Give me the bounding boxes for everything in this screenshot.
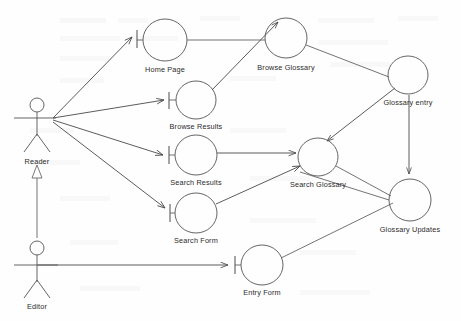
use-case-entry-form-label: Entry Form [243, 288, 281, 297]
use-case-home-page[interactable]: Home Page [143, 19, 187, 74]
use-case-browse-results-label: Browse Results [170, 122, 223, 131]
diagram-canvas: Reader Editor Home Page Browse Results S… [0, 0, 461, 321]
edge-reader-browse-results [53, 100, 164, 118]
edge-entry-form-glossary-updates [281, 203, 393, 258]
actor-leg-right [37, 280, 50, 298]
use-case-ellipse [176, 81, 216, 119]
use-case-search-form[interactable]: Search Form [174, 193, 218, 245]
edge-reader-search-results [53, 120, 163, 155]
uml-use-case-diagram: Reader Editor Home Page Browse Results S… [0, 0, 461, 321]
use-case-ellipse [241, 245, 283, 285]
use-case-glossary-entry-label: Glossary entry [383, 98, 432, 107]
actor-head-icon [30, 98, 44, 112]
edge-browse-glossary-glossary-entry [306, 45, 389, 77]
use-case-ellipse [298, 138, 338, 176]
actor-leg-left [24, 134, 37, 152]
use-case-glossary-updates-label: Glossary Updates [380, 225, 441, 234]
generalization-editor-reader [32, 165, 42, 238]
edge-search-form-search-glossary [216, 166, 300, 204]
use-case-home-page-label: Home Page [145, 65, 185, 74]
use-case-glossary-entry[interactable]: Glossary entry [383, 56, 432, 107]
use-case-browse-glossary[interactable]: Browse Glossary [257, 18, 315, 72]
actor-editor[interactable]: Editor [14, 241, 58, 311]
use-case-search-results[interactable]: Search Results [170, 135, 222, 187]
actor-leg-right [37, 134, 50, 152]
use-case-ellipse [175, 193, 217, 233]
edge-glossary-entry-search-glossary [327, 88, 395, 141]
use-case-ellipse [175, 135, 217, 175]
use-case-ellipse [388, 56, 428, 94]
background-texture [30, 16, 438, 295]
edge-reader-home-page [53, 37, 132, 118]
use-case-browse-glossary-label: Browse Glossary [257, 63, 315, 72]
use-case-browse-results[interactable]: Browse Results [170, 81, 223, 131]
use-case-search-glossary[interactable]: Search Glossary [290, 138, 346, 189]
actor-leg-left [24, 280, 37, 298]
use-case-entry-form[interactable]: Entry Form [241, 245, 283, 297]
hollow-triangle-icon [32, 165, 42, 178]
use-case-search-glossary-label: Search Glossary [290, 180, 346, 189]
actor-editor-label: Editor [27, 302, 47, 311]
actor-head-icon [30, 241, 44, 255]
use-case-ellipse [389, 179, 431, 221]
use-case-search-results-label: Search Results [170, 178, 222, 187]
use-case-search-form-label: Search Form [174, 236, 218, 245]
actor-reader-label: Reader [25, 157, 50, 166]
use-case-ellipse [265, 18, 307, 58]
use-case-glossary-updates[interactable]: Glossary Updates [380, 179, 441, 234]
